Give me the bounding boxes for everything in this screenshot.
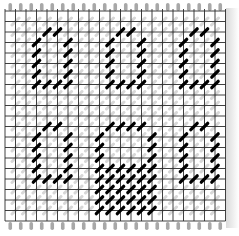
tick-mark-top (29, 3, 33, 11)
stitch (117, 29, 123, 35)
stitch (212, 144, 218, 150)
stitch (138, 81, 144, 87)
stitch (65, 144, 71, 150)
stitch (149, 155, 155, 161)
stitch (54, 81, 60, 87)
stitch (96, 176, 102, 182)
stitch (128, 207, 134, 213)
stitch (212, 39, 218, 45)
stitch (44, 123, 50, 129)
stitch (180, 165, 186, 171)
stitch (107, 50, 113, 56)
stitch (138, 50, 144, 56)
stitch (128, 186, 134, 192)
stitch (65, 155, 71, 161)
digit-bottom-right (180, 123, 218, 182)
stitch (117, 176, 123, 182)
stitch (212, 71, 218, 77)
stitch (65, 165, 71, 171)
stitch (96, 134, 102, 140)
tick-mark-top (103, 3, 107, 11)
stitch (191, 29, 197, 35)
stitch (149, 207, 155, 213)
stitch (117, 165, 123, 171)
stitch (212, 155, 218, 161)
stitch (117, 123, 123, 129)
stitch (149, 134, 155, 140)
tick-mark-top (208, 3, 212, 11)
tick-mark-bottom (124, 222, 128, 230)
tick-mark-top (71, 3, 75, 11)
stitch (33, 144, 39, 150)
tick-mark-bottom (50, 222, 54, 230)
stitch (44, 29, 50, 35)
stitch (128, 81, 134, 87)
tick-mark-bottom (103, 222, 107, 230)
stitch (138, 39, 144, 45)
digit-top-left (33, 29, 71, 88)
tick-mark-top (61, 3, 65, 11)
stitch (149, 165, 155, 171)
stitch (54, 123, 60, 129)
tick-mark-top (82, 3, 86, 11)
stitch (212, 176, 218, 182)
stitch (212, 60, 218, 66)
tick-mark-bottom (29, 222, 33, 230)
stitch (33, 165, 39, 171)
tick-mark-top (155, 3, 159, 11)
stitch (128, 176, 134, 182)
stitch (107, 165, 113, 171)
stitch (180, 81, 186, 87)
digit-bottom-left (33, 123, 71, 182)
stitch (33, 71, 39, 77)
stitch (107, 71, 113, 77)
stitch (107, 60, 113, 66)
stitch (33, 50, 39, 56)
stitch (65, 60, 71, 66)
stitch (117, 81, 123, 87)
digit-top-right (180, 29, 218, 88)
stitch (201, 176, 207, 182)
tick-mark-bottom (166, 222, 170, 230)
tick-mark-top (124, 3, 128, 11)
stitch (65, 39, 71, 45)
stitch (117, 197, 123, 203)
stitch (212, 81, 218, 87)
tick-mark-top (176, 3, 180, 11)
stitch (44, 81, 50, 87)
stitch (180, 155, 186, 161)
stitch (180, 144, 186, 150)
tick-mark-top (145, 3, 149, 11)
stitch (191, 81, 197, 87)
tick-mark-top (218, 3, 222, 11)
stitch (96, 186, 102, 192)
tick-mark-bottom (197, 222, 201, 230)
tick-mark-top (19, 3, 23, 11)
stitch (107, 176, 113, 182)
stitch (180, 176, 186, 182)
stitch (128, 123, 134, 129)
tick-mark-bottom (176, 222, 180, 230)
tick-mark-top (92, 3, 96, 11)
stitch (149, 144, 155, 150)
stitch (138, 71, 144, 77)
tick-mark-bottom (92, 222, 96, 230)
tick-mark-bottom (82, 222, 86, 230)
tick-mark-bottom (145, 222, 149, 230)
stitch (201, 81, 207, 87)
tick-mark-bottom (187, 222, 191, 230)
tick-mark-top (40, 3, 44, 11)
stitch (33, 176, 39, 182)
tick-mark-bottom (113, 222, 117, 230)
stitch (149, 197, 155, 203)
stitch (180, 50, 186, 56)
right-edge-shadow (226, 8, 239, 228)
stitch (149, 176, 155, 182)
stitch (107, 81, 113, 87)
stitch (54, 29, 60, 35)
stitch (96, 155, 102, 161)
stitch (212, 134, 218, 140)
stitch (65, 81, 71, 87)
stitch (96, 207, 102, 213)
stitch (138, 186, 144, 192)
